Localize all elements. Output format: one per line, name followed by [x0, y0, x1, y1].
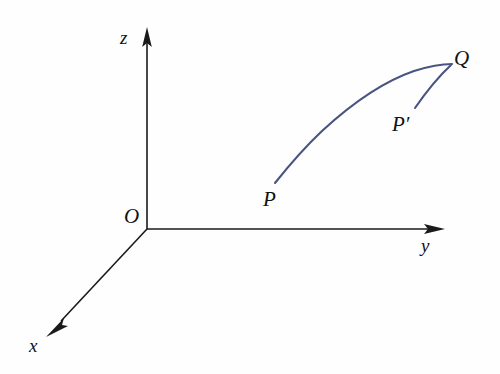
point-p-label: P — [263, 189, 276, 210]
diagram-svg — [0, 0, 500, 374]
figure-canvas: z y x O P P′ Q — [0, 0, 500, 374]
origin-label: O — [124, 206, 139, 227]
x-axis-arrowhead — [46, 318, 68, 337]
x-axis-label: x — [29, 336, 37, 355]
y-axis-group — [147, 224, 445, 234]
main-path-curve — [275, 64, 452, 183]
y-axis-label: y — [421, 236, 429, 255]
x-axis-group — [46, 229, 147, 337]
point-q-label: Q — [454, 48, 469, 69]
alternate-path-curve — [415, 65, 451, 108]
z-axis-label: z — [120, 28, 127, 47]
z-axis-group — [142, 27, 152, 229]
x-axis-line — [61, 229, 147, 321]
point-p-prime-label: P′ — [392, 114, 409, 135]
